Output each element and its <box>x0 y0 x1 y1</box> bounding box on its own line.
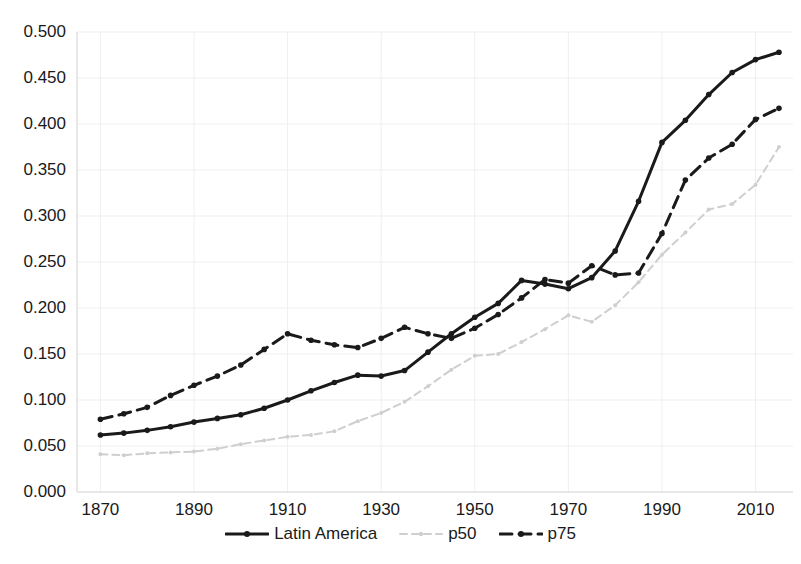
data-point-marker <box>589 275 595 281</box>
data-point-marker <box>425 349 431 355</box>
data-point-marker <box>98 417 104 423</box>
data-point-marker <box>590 320 594 324</box>
x-tick-label: 1910 <box>248 500 328 520</box>
data-point-marker <box>192 450 196 454</box>
data-point-marker <box>145 451 149 455</box>
data-point-marker <box>144 405 150 411</box>
data-point-marker <box>121 411 127 417</box>
series-lines <box>100 52 779 455</box>
data-point-marker <box>683 231 687 235</box>
data-point-marker <box>285 397 291 403</box>
legend-swatch-latin-america <box>225 527 269 541</box>
legend-item-latin-america[interactable]: Latin America <box>225 524 377 544</box>
series-line-p50 <box>100 147 779 455</box>
data-point-marker <box>543 327 547 331</box>
data-point-marker <box>262 438 266 442</box>
data-point-marker <box>683 177 689 183</box>
data-point-marker <box>356 419 360 423</box>
data-point-marker <box>707 208 711 212</box>
data-point-marker <box>261 405 267 411</box>
data-point-marker <box>472 314 478 320</box>
data-point-marker <box>449 368 453 372</box>
data-point-marker <box>168 393 174 399</box>
legend-swatch-p50 <box>399 527 443 541</box>
data-point-marker <box>332 380 338 386</box>
data-point-marker <box>730 202 734 206</box>
data-point-marker <box>261 347 267 353</box>
data-point-marker <box>566 286 572 292</box>
data-point-marker <box>683 118 689 124</box>
data-point-marker <box>121 430 127 436</box>
x-tick-label: 1990 <box>622 500 702 520</box>
data-point-marker <box>566 313 570 317</box>
data-point-marker <box>613 303 617 307</box>
data-point-marker <box>519 295 525 301</box>
chart-plot-area <box>0 0 801 564</box>
chart-container: 0.0000.0500.1000.1500.2000.2500.3000.350… <box>0 0 801 564</box>
x-tick-label: 1970 <box>528 500 608 520</box>
data-point-marker <box>308 337 314 343</box>
data-point-marker <box>589 263 595 269</box>
data-point-marker <box>215 416 221 422</box>
data-point-marker <box>378 373 384 379</box>
y-tick-label: 0.400 <box>2 114 66 134</box>
data-point-marker <box>472 325 478 331</box>
x-tick-label: 2010 <box>716 500 796 520</box>
data-point-marker <box>403 400 407 404</box>
legend-swatch-p75 <box>499 527 543 541</box>
data-point-marker <box>636 270 642 276</box>
data-point-marker <box>473 354 477 358</box>
y-tick-label: 0.450 <box>2 68 66 88</box>
data-point-marker <box>308 388 314 394</box>
x-tick-label: 1890 <box>154 500 234 520</box>
x-tick-label: 1950 <box>435 500 515 520</box>
data-point-marker <box>285 331 291 337</box>
data-point-marker <box>215 373 221 379</box>
data-point-marker <box>98 452 102 456</box>
data-point-marker <box>659 231 665 237</box>
data-point-marker <box>238 412 244 418</box>
data-point-marker <box>776 49 782 55</box>
data-point-marker <box>495 301 501 307</box>
data-point-marker <box>754 183 758 187</box>
legend-label-p75: p75 <box>548 524 576 544</box>
data-point-marker <box>402 325 408 331</box>
data-point-marker <box>402 368 408 374</box>
data-point-marker <box>332 342 338 348</box>
data-point-marker <box>425 331 431 337</box>
y-tick-label: 0.200 <box>2 298 66 318</box>
data-point-marker <box>729 141 735 147</box>
data-point-marker <box>355 372 361 378</box>
chart-legend: Latin Americap50p75 <box>0 524 801 544</box>
data-point-marker <box>191 382 197 388</box>
data-point-marker <box>612 248 618 254</box>
legend-item-p75[interactable]: p75 <box>499 524 576 544</box>
data-point-marker <box>168 424 174 430</box>
data-point-marker <box>98 432 104 438</box>
data-point-marker <box>753 117 759 123</box>
data-point-marker <box>520 340 524 344</box>
data-point-marker <box>144 428 150 434</box>
legend-label-latin-america: Latin America <box>274 524 377 544</box>
data-point-marker <box>309 433 313 437</box>
data-point-marker <box>355 345 361 351</box>
y-tick-label: 0.150 <box>2 344 66 364</box>
y-tick-label: 0.250 <box>2 252 66 272</box>
data-point-marker <box>612 272 618 278</box>
y-tick-label: 0.300 <box>2 206 66 226</box>
data-point-marker <box>238 362 244 368</box>
data-point-marker <box>636 198 642 204</box>
data-point-marker <box>777 145 781 149</box>
legend-item-p50[interactable]: p50 <box>399 524 476 544</box>
data-point-marker <box>566 280 572 286</box>
legend-label-p50: p50 <box>448 524 476 544</box>
data-point-marker <box>449 336 455 342</box>
data-point-marker <box>660 253 664 257</box>
data-point-marker <box>659 140 665 146</box>
y-tick-label: 0.000 <box>2 482 66 502</box>
x-tick-label: 1930 <box>341 500 421 520</box>
data-point-marker <box>637 280 641 284</box>
data-point-marker <box>495 312 501 318</box>
data-point-marker <box>706 92 712 98</box>
data-point-marker <box>122 453 126 457</box>
